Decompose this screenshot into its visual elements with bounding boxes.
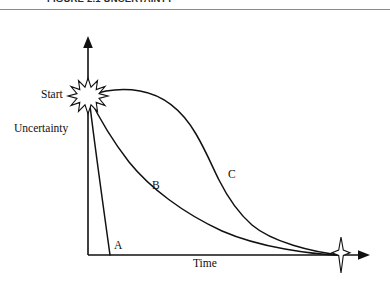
- start-burst-icon: [68, 78, 108, 114]
- curve-c-label: C: [228, 169, 236, 181]
- y-axis: [83, 36, 93, 255]
- curve-a-path: [89, 97, 110, 255]
- start-label: Start: [41, 89, 63, 101]
- figure-root: FIGURE 2.1 UNCERTAINTY Start Uncertainty…: [0, 0, 390, 284]
- curve-a-label: A: [114, 240, 122, 252]
- y-axis-title: Uncertainty: [14, 123, 68, 135]
- x-axis-title: Time: [193, 258, 217, 270]
- uncertainty-decay-chart: [0, 0, 390, 284]
- curve-c-path: [89, 90, 341, 255]
- curve-b-label: B: [152, 180, 160, 192]
- curve-b-path: [89, 97, 341, 256]
